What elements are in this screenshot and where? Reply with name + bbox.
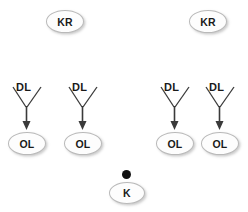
dl-ol-group-2: DL OL xyxy=(58,76,114,156)
node-label-dl: DL xyxy=(72,81,87,93)
node-label: KR xyxy=(57,16,73,28)
node-label: OL xyxy=(168,138,183,150)
node-ol[interactable]: OL xyxy=(156,132,194,155)
node-ol[interactable]: OL xyxy=(201,132,239,155)
node-label: KR xyxy=(200,16,216,28)
node-k[interactable]: K xyxy=(109,182,145,204)
node-ol[interactable]: OL xyxy=(64,132,102,155)
node-ol[interactable]: OL xyxy=(8,132,46,155)
node-label-dl: DL xyxy=(209,81,224,93)
diagram-canvas: KR KR DL OL DL OL DL xyxy=(0,0,248,212)
node-label-dl: DL xyxy=(16,81,31,93)
node-label: OL xyxy=(213,138,228,150)
dl-ol-group-1: DL OL xyxy=(2,76,58,156)
node-kr-right[interactable]: KR xyxy=(189,10,227,33)
node-label: OL xyxy=(20,138,35,150)
node-label: K xyxy=(123,187,131,199)
dl-ol-group-4: DL OL xyxy=(195,76,248,156)
node-label-dl: DL xyxy=(164,81,179,93)
marker-dot xyxy=(122,170,131,179)
node-label: OL xyxy=(76,138,91,150)
node-kr-left[interactable]: KR xyxy=(46,10,84,33)
